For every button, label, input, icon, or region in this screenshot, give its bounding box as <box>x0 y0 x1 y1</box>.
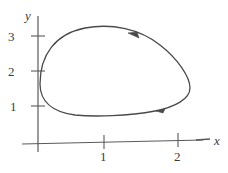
y-tick-label-3: 3 <box>8 30 15 43</box>
x-tick-label-2: 2 <box>174 150 181 163</box>
x-axis <box>22 140 203 144</box>
closed-curve <box>40 26 190 116</box>
y-axis-label: y <box>25 9 31 22</box>
y-tick-label-1: 1 <box>10 100 17 113</box>
plot-figure: 3 2 1 1 2 y x <box>0 0 228 173</box>
y-tick-label-2: 2 <box>8 65 15 78</box>
curve-arrowhead-upper <box>128 32 139 38</box>
x-axis-arrow-dash <box>196 139 210 140</box>
plot-canvas <box>0 0 228 173</box>
x-tick-label-1: 1 <box>100 150 107 163</box>
x-axis-label: x <box>214 134 220 147</box>
